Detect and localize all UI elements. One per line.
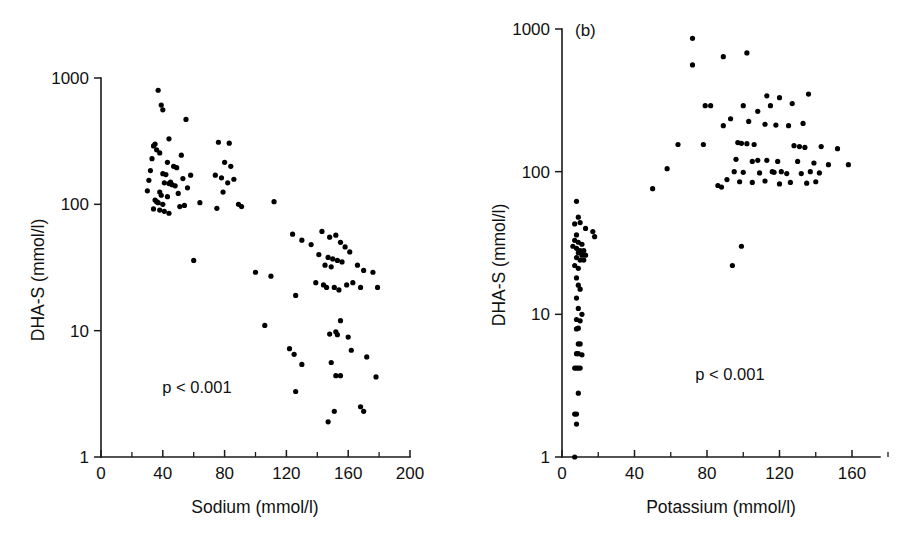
data-point [650,186,655,191]
data-point [826,162,831,167]
data-point [173,183,178,188]
x-tick-label: 80 [215,464,234,483]
data-point [191,258,196,263]
data-point [156,200,161,205]
data-point [271,199,276,204]
data-point [327,331,332,336]
data-point [332,409,337,414]
data-point [174,165,179,170]
data-point [739,244,744,249]
data-point [293,389,298,394]
data-point [149,156,154,161]
y-tick-label: 1000 [51,69,89,88]
data-point [338,240,343,245]
data-point [576,215,581,220]
data-point [583,226,588,231]
data-point [335,258,340,263]
x-tick-label: 0 [557,464,566,483]
pvalue-annotation-b: p < 0.001 [695,365,764,383]
data-point [739,141,744,146]
data-point [358,404,363,409]
data-point [339,259,344,264]
data-point [166,136,171,141]
data-point [177,204,182,209]
data-point [741,170,746,175]
data-point [574,411,579,416]
data-point [313,280,318,285]
data-point [574,422,579,427]
data-point [721,54,726,59]
data-point [225,180,230,185]
data-point [227,141,232,146]
y-tick-label: 100 [61,195,89,214]
data-point [804,181,809,186]
data-point [326,255,331,260]
data-point [299,238,304,243]
data-point [336,287,341,292]
data-point [293,293,298,298]
data-point [188,173,193,178]
data-point [222,160,227,165]
data-point [690,62,695,67]
data-point [350,280,355,285]
data-point [741,103,746,108]
data-point [329,360,334,365]
data-point [180,176,185,181]
data-point [219,175,224,180]
y-tick-label: 10 [70,322,89,341]
x-tick-label: 160 [334,464,362,483]
data-point [576,391,581,396]
data-point [817,170,822,175]
data-point [326,419,331,424]
data-point [773,123,778,128]
data-point [675,142,680,147]
data-point [784,171,789,176]
data-point [375,285,380,290]
data-point [574,326,579,331]
data-point [373,374,378,379]
data-point [346,334,351,339]
data-point [185,185,190,190]
data-point [220,189,225,194]
data-point [146,178,151,183]
data-point [795,159,800,164]
x-tick-label: 120 [272,464,300,483]
data-point [574,275,579,280]
data-point [182,203,187,208]
data-point [574,199,579,204]
data-point [757,170,762,175]
x-tick-label: 160 [838,464,866,483]
data-point [811,160,816,165]
data-point [579,312,584,317]
data-point [581,248,586,253]
data-point [786,123,791,128]
data-point [762,122,767,127]
plot-a-ticks [94,78,410,457]
scatter-panel-sodium: 040801201602001101001000 Sodium (mmol/l)… [0,0,455,550]
data-point [343,244,348,249]
y-tick-label: 1 [541,448,550,467]
data-point [790,101,795,106]
data-point [590,229,595,234]
data-point [163,172,168,177]
data-point [370,270,375,275]
data-point [262,323,267,328]
data-point [846,162,851,167]
data-point [299,362,304,367]
data-point [228,164,233,169]
data-point [160,107,165,112]
data-point [157,208,162,213]
data-point [750,180,755,185]
data-point [777,95,782,100]
data-point [755,158,760,163]
data-point [715,183,720,188]
data-point [578,318,583,323]
data-point [333,373,338,378]
data-point [239,204,244,209]
data-point [176,191,181,196]
scatter-plot-potassium-svg: 040801201601101001000 (b) Potassium (mmo… [455,0,909,550]
data-point [332,285,337,290]
data-point [592,234,597,239]
data-point [287,346,292,351]
data-point [576,266,581,271]
